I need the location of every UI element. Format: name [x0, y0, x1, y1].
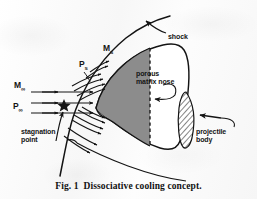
- shock-label: shock: [168, 33, 188, 41]
- freestream-pressure-label: P∞: [13, 102, 23, 113]
- shock-mach-label: Ms: [103, 44, 113, 55]
- figure-page: M∞ P∞ Ms Ps shock porous matrix nose sta…: [0, 0, 257, 199]
- shock-pressure-label: Ps: [79, 60, 88, 71]
- figure-caption-number: Fig. 1: [55, 181, 78, 191]
- stagnation-point-star: [57, 99, 71, 112]
- shock-pressure-leader: [84, 72, 90, 82]
- stagnation-point-label: stagnation point: [21, 128, 61, 143]
- projectile-body-label: projectile body: [196, 128, 238, 143]
- shock-leader: [146, 21, 166, 33]
- porous-matrix-nose-label: porous matrix nose: [136, 70, 180, 85]
- figure-caption-text: Dissociative cooling concept.: [84, 181, 202, 191]
- freestream-mach-label: M∞: [14, 81, 25, 92]
- dissociative-cooling-diagram: [0, 0, 257, 199]
- figure-caption: Fig. 1Dissociative cooling concept.: [0, 181, 257, 191]
- projectile-body-leader: [200, 115, 234, 127]
